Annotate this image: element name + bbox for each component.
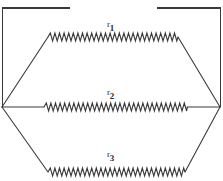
resistor-r1-zigzag — [48, 33, 178, 41]
resistor-r2-zigzag — [44, 103, 188, 111]
bottom-branch-lead-left — [2, 107, 48, 172]
top-branch-lead-right — [178, 37, 220, 107]
resistor-r3-zigzag — [48, 168, 185, 176]
resistor-label-r1: r1 — [107, 20, 114, 33]
resistor-label-r3-subscript: 3 — [110, 153, 115, 163]
bottom-branch-lead-right — [185, 107, 220, 172]
resistor-label-r2-subscript: 2 — [110, 91, 115, 101]
resistor-label-r3: r3 — [107, 150, 114, 163]
resistor-symbols — [44, 33, 188, 176]
resistor-label-r2: r2 — [107, 88, 114, 101]
top-branch-lead-left — [2, 37, 48, 107]
resistor-label-r1-subscript: 1 — [110, 23, 115, 33]
circuit-figure: r1 r2 r3 — [0, 0, 223, 181]
